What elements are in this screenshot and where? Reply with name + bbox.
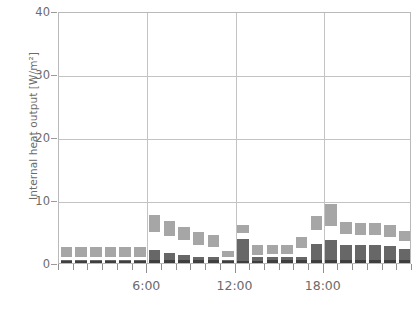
x-tick-mark [411, 264, 412, 270]
y-tick-mark [51, 12, 57, 13]
x-tick-label: 12:00 [216, 278, 252, 293]
x-tick-mark [264, 264, 265, 270]
bar-segment-base-load [90, 261, 101, 263]
bar-segment-appliances [340, 222, 351, 234]
bar-segment-appliances [311, 216, 322, 230]
bar-segment-base-load [252, 261, 263, 263]
y-tick-mark [51, 201, 57, 202]
bar-segment-lighting [311, 230, 322, 244]
y-tick-mark [51, 138, 57, 139]
bar-segment-appliances [75, 247, 86, 257]
plot-area [58, 12, 411, 264]
bar [61, 247, 72, 263]
chart-root: Internal heat output [W/m²] 010203040 6:… [0, 0, 419, 314]
bar-segment-base-load [61, 261, 72, 263]
x-tick-mark [87, 264, 88, 270]
bar [119, 247, 130, 263]
bar-segment-base-load [75, 261, 86, 263]
bar-segment-appliances [281, 245, 292, 254]
bar [75, 247, 86, 263]
bar-segment-appliances [90, 247, 101, 257]
x-axis-ticks: 6:0012:0018:00 [0, 264, 419, 276]
bar [384, 225, 395, 263]
x-tick-label: 18:00 [305, 278, 341, 293]
bar-segment-lighting [369, 235, 380, 245]
bar-segment-occupants [164, 253, 175, 261]
x-tick-mark [337, 264, 338, 270]
x-tick-mark-major [146, 264, 147, 273]
bar-segment-appliances [149, 215, 160, 232]
bar-segment-appliances [325, 204, 336, 226]
bar-segment-base-load [340, 260, 351, 263]
bar-segment-lighting [296, 248, 307, 257]
x-tick-mark [367, 264, 368, 270]
bar [355, 223, 366, 263]
bar [149, 215, 160, 264]
bar-segment-lighting [193, 245, 204, 257]
x-tick-mark [132, 264, 133, 270]
bar [369, 223, 380, 263]
bar [222, 251, 233, 263]
bar-segment-lighting [340, 234, 351, 245]
bar [237, 225, 248, 263]
x-tick-mark [396, 264, 397, 270]
x-tick-mark [220, 264, 221, 270]
bar [178, 226, 189, 263]
bar [134, 247, 145, 263]
bar-segment-base-load [119, 261, 130, 263]
bar [325, 204, 336, 263]
bar [311, 216, 322, 263]
x-tick-mark [352, 264, 353, 270]
bar-segment-lighting [164, 236, 175, 253]
y-tick-label: 20 [16, 131, 50, 145]
bar-segment-occupants [384, 246, 395, 260]
bar-segment-appliances [105, 247, 116, 257]
x-tick-label: 6:00 [132, 278, 160, 293]
bar-segment-appliances [267, 245, 278, 254]
bar [105, 247, 116, 263]
bar [208, 235, 219, 263]
bar-segment-appliances [119, 247, 130, 257]
x-tick-mark [161, 264, 162, 270]
bar-segment-occupants [340, 245, 351, 260]
bar-segment-base-load [399, 260, 410, 263]
x-tick-mark [279, 264, 280, 270]
bar-segment-lighting [325, 226, 336, 240]
bar [252, 245, 263, 263]
x-tick-mark [176, 264, 177, 270]
bar-segment-lighting [355, 235, 366, 245]
x-tick-mark [102, 264, 103, 270]
bar-segment-base-load [325, 260, 336, 263]
bar [340, 222, 351, 263]
bar-segment-appliances [237, 225, 248, 233]
bar [399, 231, 410, 263]
bar-segment-occupants [311, 244, 322, 260]
bar-segment-appliances [61, 247, 72, 257]
y-tick-label: 30 [16, 68, 50, 82]
bar-segment-base-load [296, 260, 307, 263]
bar-segment-base-load [178, 260, 189, 263]
bar [164, 221, 175, 263]
bar [90, 247, 101, 263]
bar-segment-occupants [237, 239, 248, 261]
bar-segment-occupants [369, 245, 380, 259]
bar-segment-appliances [164, 221, 175, 235]
bar-segment-base-load [267, 260, 278, 263]
bar-segment-appliances [355, 223, 366, 235]
y-tick-label: 10 [16, 194, 50, 208]
x-tick-mark [293, 264, 294, 270]
bar-segment-base-load [384, 260, 395, 263]
y-tick-mark [51, 75, 57, 76]
bar-segment-base-load [149, 260, 160, 263]
bar-segment-base-load [222, 261, 233, 263]
x-tick-mark [73, 264, 74, 270]
bar-segment-occupants [149, 250, 160, 261]
bar-segment-appliances [193, 232, 204, 245]
bar-segment-lighting [178, 240, 189, 255]
bar-segment-occupants [325, 240, 336, 260]
bar-segment-appliances [296, 237, 307, 248]
bar-segment-base-load [311, 260, 322, 263]
bar [193, 232, 204, 263]
bar-segment-appliances [252, 245, 263, 254]
bar-segment-lighting [208, 247, 219, 257]
